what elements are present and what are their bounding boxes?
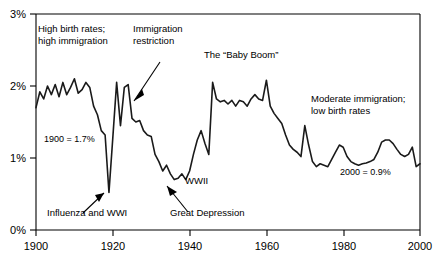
x-tick-label-1940: 1940: [178, 240, 202, 252]
annotation-line: Moderate immigration;: [311, 93, 406, 104]
note-1900: 1900 = 1.7%: [44, 134, 95, 144]
y-tick-label-2: 2%: [10, 80, 26, 92]
x-tick-label-1980: 1980: [332, 240, 356, 252]
annotation-line: restriction: [133, 35, 174, 46]
y-tick-label-0: 0%: [10, 224, 26, 236]
y-tick-label-3: 3%: [10, 8, 26, 20]
annotation-wwii: WWII: [185, 175, 208, 186]
population-growth-chart: 3% 2% 1% 0% 1900 1920 1940 1960 1980 200…: [0, 0, 446, 262]
note-2000: 2000 = 0.9%: [340, 167, 391, 177]
annotation-baby-boom: The “Baby Boom”: [204, 49, 278, 60]
annotation-line: High birth rates;: [38, 23, 105, 34]
x-tick-label-1960: 1960: [255, 240, 279, 252]
annotation-line: low birth rates: [311, 105, 370, 116]
annotation-high-birth-rates: High birth rates;high immigration: [38, 23, 108, 46]
x-tick-label-1920: 1920: [101, 240, 125, 252]
annotation-line: Immigration: [133, 23, 183, 34]
annotation-line: Great Depression: [170, 207, 244, 218]
annotation-line: high immigration: [38, 35, 108, 46]
x-tick-label-2000: 2000: [408, 240, 432, 252]
annotation-line: The “Baby Boom”: [204, 49, 278, 60]
y-tick-label-1: 1%: [10, 152, 26, 164]
annotation-line: WWII: [185, 175, 208, 186]
annotation-great-depression: Great Depression: [170, 207, 244, 218]
x-tick-label-1900: 1900: [24, 240, 48, 252]
chart-canvas: 3% 2% 1% 0% 1900 1920 1940 1960 1980 200…: [0, 0, 446, 262]
